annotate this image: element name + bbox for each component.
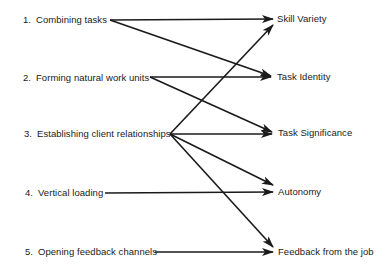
node-number: 3.	[24, 128, 37, 140]
left-node-4: 4.Vertical loading	[25, 187, 103, 199]
arrow-3-skill-variety	[170, 25, 273, 134]
node-number: 1.	[23, 14, 36, 26]
left-node-3: 3.Establishing client relationships	[24, 128, 171, 140]
right-node-feedback-from-the-job: Feedback from the job	[278, 246, 374, 258]
arrow-3-autonomy	[170, 134, 273, 185]
right-node-task-identity: Task Identity	[277, 71, 330, 83]
node-number: 5.	[25, 246, 38, 258]
right-node-autonomy: Autonomy	[278, 186, 321, 198]
arrow-1-skill-variety	[110, 19, 273, 20]
node-label: Combining tasks	[36, 14, 107, 25]
arrow-1-task-identity	[110, 20, 271, 76]
left-node-5: 5.Opening feedback channels	[25, 246, 157, 258]
node-label: Vertical loading	[38, 187, 103, 198]
node-label: Establishing client relationships	[37, 128, 171, 139]
left-node-1: 1.Combining tasks	[23, 14, 107, 26]
arrow-2-task-significance	[150, 77, 272, 132]
right-node-skill-variety: Skill Variety	[277, 13, 327, 25]
arrow-4-autonomy	[105, 192, 273, 193]
left-node-2: 2.Forming natural work units	[23, 72, 149, 84]
node-number: 4.	[25, 187, 38, 199]
node-label: Forming natural work units	[36, 72, 149, 83]
node-number: 2.	[23, 72, 36, 84]
node-label: Opening feedback channels	[38, 246, 157, 257]
arrow-3-feedback	[170, 134, 273, 247]
right-node-task-significance: Task Significance	[278, 127, 352, 139]
